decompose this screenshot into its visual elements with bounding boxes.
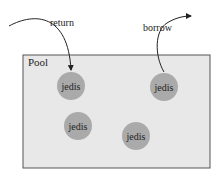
svg-text:jedis: jedis <box>68 121 88 132</box>
connection-jedis-1: jedis <box>57 72 85 100</box>
pool-diagram: Pool jedis jedis jedis jedis return borr… <box>0 0 221 178</box>
svg-text:jedis: jedis <box>61 81 81 92</box>
connection-jedis-2: jedis <box>150 73 178 101</box>
borrow-label: borrow <box>143 22 173 33</box>
connection-jedis-3: jedis <box>64 112 92 140</box>
svg-text:jedis: jedis <box>154 82 174 93</box>
svg-text:jedis: jedis <box>126 131 146 142</box>
pool-box <box>23 55 210 168</box>
return-label: return <box>50 17 74 28</box>
pool-label: Pool <box>28 56 48 68</box>
connection-jedis-4: jedis <box>122 122 150 150</box>
